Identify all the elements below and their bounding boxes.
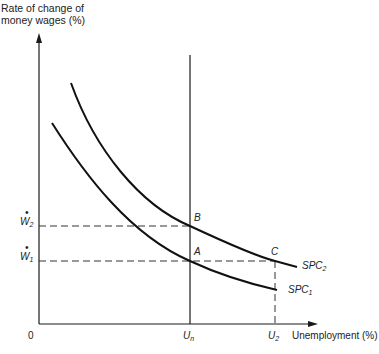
spc2-curve (71, 83, 297, 267)
x-tick-un-sub: n (190, 335, 194, 342)
x-tick-u2-sub: 2 (275, 335, 279, 342)
y-axis-arrow-icon (36, 33, 42, 43)
origin-label: 0 (28, 330, 34, 341)
spc2-label-main: SPC (302, 260, 323, 271)
spc1-label-main: SPC (288, 284, 309, 295)
y-tick-w1: • W1 (20, 246, 33, 263)
phillips-curve-diagram (0, 0, 379, 354)
x-tick-u2: U2 (268, 330, 279, 342)
spc2-label: SPC2 (302, 260, 326, 272)
point-a-label: A (194, 246, 201, 257)
spc1-curve (52, 123, 277, 290)
y-tick-w2: • W2 (20, 211, 33, 228)
spc2-label-sub: 2 (323, 265, 327, 272)
y-tick-w2-sub: 2 (29, 221, 33, 228)
y-tick-w1-sub: 1 (29, 256, 33, 263)
point-b-label: B (194, 212, 201, 223)
x-axis-arrow-icon (308, 321, 318, 327)
spc1-label: SPC1 (288, 284, 312, 296)
point-c-label: C (271, 246, 278, 257)
y-axis-label: Rate of change of money wages (%) (1, 2, 85, 26)
x-tick-un: Un (183, 330, 194, 342)
x-axis-label: Unemployment (%) (292, 330, 378, 341)
y-axis-label-line1: Rate of change of (1, 2, 85, 14)
spc1-label-sub: 1 (309, 289, 313, 296)
y-axis-label-line2: money wages (%) (1, 14, 85, 26)
